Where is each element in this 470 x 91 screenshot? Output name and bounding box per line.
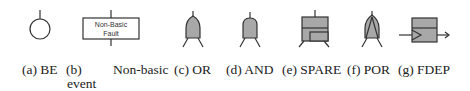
caption-e: (e) SPARE [282, 62, 341, 78]
or-gate-symbol [183, 11, 203, 47]
caption-a: (a) BE [22, 62, 58, 78]
fdep-gate-symbol [399, 18, 449, 42]
non-basic-box-line1: Non-Basic [95, 21, 128, 28]
caption-g: (g) FDEP [398, 62, 450, 78]
fault-tree-symbols: Non-Basic Fault [0, 0, 470, 55]
basic-event-symbol [30, 10, 50, 39]
spare-gate-symbol [299, 10, 329, 47]
caption-b-word2: event [67, 76, 96, 91]
caption-b-word1: Non-basic [113, 62, 168, 78]
non-basic-box-line2: Fault [103, 30, 119, 37]
por-gate-symbol [362, 11, 382, 47]
non-basic-event-symbol: Non-Basic Fault [83, 10, 139, 46]
caption-f: (f) POR [347, 62, 390, 78]
caption-d: (d) AND [226, 62, 274, 78]
caption-c: (c) OR [174, 62, 211, 78]
and-gate-symbol [240, 12, 260, 47]
